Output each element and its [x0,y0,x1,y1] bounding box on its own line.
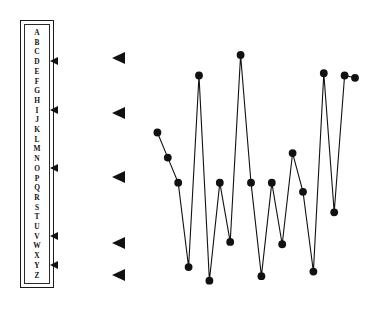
alphabet-letter-label: H [25,96,49,106]
left-pointing-triangle-icon [112,171,125,183]
chart-data-point [226,238,234,246]
alphabet-letter-label: B [25,37,49,47]
alphabet-item-v[interactable]: V [25,232,49,241]
left-pointing-triangle-icon [50,106,58,114]
alphabet-item-j[interactable]: J [25,115,49,124]
line-chart [135,45,367,295]
left-pointing-triangle-icon [112,237,125,249]
alphabet-item-g[interactable]: G [25,86,49,95]
alphabet-letter-label: R [25,193,49,203]
chart-line-series [157,55,355,281]
chart-data-point [289,149,297,157]
chart-data-point [310,268,318,276]
alphabet-letter-label: O [25,164,49,174]
chart-data-point [206,277,214,285]
chart-data-point [268,179,276,187]
alphabet-item-o[interactable]: O [25,164,49,173]
chart-data-point [154,129,162,137]
chart-data-point [278,240,286,248]
left-pointing-triangle-icon [50,57,58,65]
alphabet-item-f[interactable]: F [25,77,49,86]
alphabet-letter-label: U [25,222,49,232]
left-pointing-triangle-icon [112,269,125,281]
alphabet-index-box[interactable]: ABCDEFGHIJKLMNOPQRSTUVWXYZ [20,20,54,288]
alphabet-item-m[interactable]: M [25,144,49,153]
alphabet-letter-label: Q [25,183,49,193]
left-pointing-triangle-icon [50,261,58,269]
alphabet-letter-label: X [25,251,49,261]
chart-data-point [341,72,349,80]
chart-data-point [247,179,255,187]
alphabet-letter-label: J [25,115,49,125]
alphabet-letter-label: V [25,232,49,242]
alphabet-letter-label: E [25,67,49,77]
chart-data-point [258,272,266,280]
alphabet-letter-label: Y [25,261,49,271]
alphabet-letter-label: T [25,212,49,222]
alphabet-letter-list[interactable]: ABCDEFGHIJKLMNOPQRSTUVWXYZ [25,25,49,283]
alphabet-item-l[interactable]: L [25,135,49,144]
line-chart-svg [135,45,367,295]
chart-data-point [330,208,338,216]
left-pointing-triangle-icon [112,107,125,119]
alphabet-letter-label: C [25,47,49,57]
chart-data-point [216,179,224,187]
left-pointing-triangle-icon [112,52,125,64]
alphabet-item-r[interactable]: R [25,193,49,202]
left-pointing-triangle-icon [50,232,58,240]
alphabet-item-q[interactable]: Q [25,183,49,192]
alphabet-item-h[interactable]: H [25,96,49,105]
alphabet-item-s[interactable]: S [25,203,49,212]
alphabet-item-i[interactable]: I [25,106,49,115]
alphabet-item-c[interactable]: C [25,47,49,56]
alphabet-letter-label: K [25,125,49,135]
alphabet-letter-label: A [25,28,49,38]
alphabet-index-inner-frame: ABCDEFGHIJKLMNOPQRSTUVWXYZ [24,24,50,284]
alphabet-item-p[interactable]: P [25,174,49,183]
chart-data-point [320,69,328,77]
alphabet-letter-label: P [25,173,49,183]
chart-data-point [185,263,193,271]
chart-data-point [299,188,307,196]
alphabet-item-z[interactable]: Z [25,271,49,280]
alphabet-letter-label: I [25,105,49,115]
chart-data-point [351,74,359,82]
alphabet-item-y[interactable]: Y [25,261,49,270]
chart-data-point [164,154,172,162]
alphabet-letter-label: G [25,86,49,96]
alphabet-item-t[interactable]: T [25,212,49,221]
alphabet-item-n[interactable]: N [25,154,49,163]
alphabet-letter-label: M [25,144,49,154]
chart-data-point [237,51,245,59]
alphabet-letter-label: D [25,57,49,67]
screenshot-canvas: ABCDEFGHIJKLMNOPQRSTUVWXYZ [0,0,374,309]
left-pointing-triangle-icon [50,164,58,172]
alphabet-item-b[interactable]: B [25,38,49,47]
chart-data-point [195,72,203,80]
alphabet-item-k[interactable]: K [25,125,49,134]
alphabet-item-e[interactable]: E [25,67,49,76]
alphabet-item-u[interactable]: U [25,222,49,231]
chart-data-point [174,179,182,187]
alphabet-letter-label: Z [25,270,49,280]
alphabet-letter-label: W [25,241,49,251]
alphabet-letter-label: F [25,76,49,86]
alphabet-item-x[interactable]: X [25,251,49,260]
alphabet-letter-label: L [25,135,49,145]
alphabet-letter-label: N [25,154,49,164]
alphabet-letter-label: S [25,202,49,212]
alphabet-item-a[interactable]: A [25,28,49,37]
alphabet-item-d[interactable]: D [25,57,49,66]
alphabet-item-w[interactable]: W [25,241,49,250]
